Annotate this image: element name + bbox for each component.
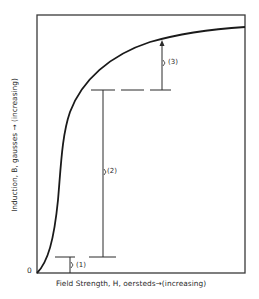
magnetization-curve <box>37 27 245 273</box>
plot-frame <box>37 15 245 273</box>
origin-label: 0 <box>27 267 32 275</box>
region-1-label: (1) <box>76 262 86 269</box>
y-axis-label: Induction, B, gausses → (increasing) <box>11 78 18 212</box>
x-axis-label: Field Strength, H, oersteds→(increasing) <box>56 280 206 287</box>
region-3-arrow-icon <box>160 40 165 46</box>
region-2-brace-icon <box>104 169 106 175</box>
region-2-label: (2) <box>107 168 117 175</box>
region-1-brace-icon <box>71 262 73 268</box>
region-3-label: (3) <box>168 59 178 66</box>
region-3-brace-icon <box>163 60 165 66</box>
bh-curve-diagram <box>0 0 259 299</box>
